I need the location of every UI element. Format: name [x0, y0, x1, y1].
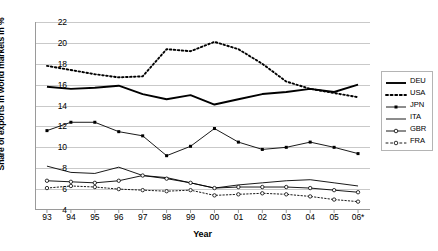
- series-line: [47, 122, 358, 155]
- data-point: [285, 193, 288, 196]
- data-point: [213, 194, 216, 197]
- legend-item-label: JPN: [408, 99, 424, 111]
- data-point: [261, 148, 264, 151]
- legend-key-icon: [384, 135, 408, 147]
- y-axis-title: Share of exports in world markets in %: [0, 0, 8, 188]
- data-point: [189, 188, 192, 191]
- legend-item-jpn[interactable]: JPN: [384, 99, 430, 111]
- data-point: [141, 174, 144, 177]
- data-point: [165, 177, 168, 180]
- legend-item-deu[interactable]: DEU: [384, 75, 430, 87]
- data-point: [333, 146, 336, 149]
- data-point: [165, 190, 168, 193]
- series-fra: [45, 184, 359, 203]
- y-axis-tick-label: 8: [41, 168, 67, 177]
- x-axis-tick-label: 06*: [341, 213, 375, 222]
- chart-container: Share of exports in world markets in % 4…: [0, 0, 438, 251]
- legend-key-icon: [384, 87, 408, 99]
- data-point: [189, 181, 192, 184]
- y-axis-tick-label: 20: [41, 43, 67, 52]
- legend-key-icon: [384, 111, 408, 123]
- data-point: [117, 130, 120, 133]
- series-line: [47, 42, 358, 97]
- legend-item-label: GBR: [408, 123, 426, 135]
- legend-key-icon: [384, 99, 408, 111]
- series-line: [47, 166, 358, 188]
- legend-item-ita[interactable]: ITA: [384, 111, 430, 123]
- y-axis-tick-label: 6: [41, 189, 67, 198]
- data-point: [69, 121, 72, 124]
- data-point: [261, 192, 264, 195]
- y-axis-tick-label: 10: [41, 147, 67, 156]
- plot-area: [35, 22, 370, 210]
- legend-item-label: FRA: [408, 135, 425, 147]
- legend-item-label: ITA: [408, 111, 421, 123]
- y-axis-tick-label: 14: [41, 106, 67, 115]
- x-axis-title: Year: [35, 229, 370, 239]
- data-point: [308, 186, 311, 189]
- data-point: [309, 141, 312, 144]
- series-layer: [35, 22, 370, 210]
- data-point: [332, 198, 335, 201]
- data-point: [45, 179, 48, 182]
- legend-key-icon: [384, 123, 408, 135]
- data-point: [117, 179, 120, 182]
- y-axis-tick-label: 18: [41, 64, 67, 73]
- data-point: [285, 146, 288, 149]
- data-point: [69, 180, 72, 183]
- legend-item-gbr[interactable]: GBR: [384, 123, 430, 135]
- data-point: [93, 181, 96, 184]
- series-usa: [47, 42, 358, 97]
- data-point: [213, 186, 216, 189]
- y-axis-tick-label: 12: [41, 126, 67, 135]
- data-point: [261, 185, 264, 188]
- chart-legend: DEUUSAJPNITAGBRFRA: [381, 71, 433, 151]
- series-jpn: [45, 121, 359, 157]
- data-point: [308, 195, 311, 198]
- data-point: [141, 134, 144, 137]
- y-axis-tick-label: 22: [41, 22, 67, 31]
- data-point: [93, 121, 96, 124]
- data-point: [165, 154, 168, 157]
- legend-item-fra[interactable]: FRA: [384, 135, 430, 147]
- series-line: [47, 85, 358, 105]
- legend-item-label: USA: [408, 87, 425, 99]
- legend-item-label: DEU: [408, 75, 426, 87]
- data-point: [189, 145, 192, 148]
- data-point: [332, 188, 335, 191]
- series-gbr: [45, 174, 359, 194]
- data-point: [213, 127, 216, 130]
- data-point: [357, 152, 360, 155]
- legend-key-icon: [384, 75, 408, 87]
- data-point: [285, 185, 288, 188]
- data-point: [69, 184, 72, 187]
- data-point: [356, 191, 359, 194]
- legend-item-usa[interactable]: USA: [384, 87, 430, 99]
- series-ita: [47, 166, 358, 188]
- y-axis-tick-label: 16: [41, 85, 67, 94]
- data-point: [93, 185, 96, 188]
- data-point: [237, 185, 240, 188]
- data-point: [141, 188, 144, 191]
- series-deu: [47, 85, 358, 105]
- data-point: [237, 141, 240, 144]
- data-point: [237, 193, 240, 196]
- data-point: [356, 200, 359, 203]
- data-point: [117, 187, 120, 190]
